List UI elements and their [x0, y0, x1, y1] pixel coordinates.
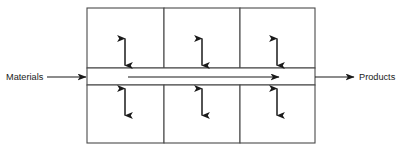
output-label: Products: [359, 72, 396, 82]
process-flow-diagram: Materials Products: [0, 0, 400, 151]
lower-stage-row: [87, 85, 315, 143]
input-label: Materials: [6, 72, 44, 82]
process-diagram-container: Materials Products: [0, 0, 400, 151]
upper-stage-row: [87, 8, 315, 68]
